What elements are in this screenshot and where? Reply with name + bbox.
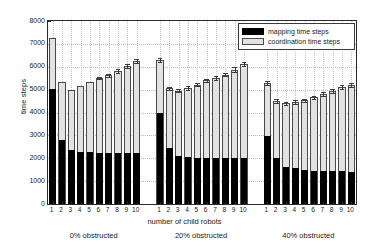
error-bar-cap: [330, 89, 334, 90]
bar-segment-mapping: [283, 167, 290, 204]
error-bar-cap: [223, 76, 227, 77]
bar-segment-mapping: [203, 158, 210, 204]
x-tick-mark: [207, 202, 208, 204]
error-bar-cap: [204, 82, 208, 83]
error-bar-cap: [330, 93, 334, 94]
x-tick-mark: [244, 202, 245, 204]
error-bar-cap: [340, 89, 344, 90]
error-bar-cap: [106, 74, 110, 75]
bar-stack: [58, 82, 65, 204]
error-bar-cap: [232, 67, 236, 68]
y-axis-tick-labels: 010002000300040005000600070008000: [12, 0, 45, 248]
x-tick-mark: [314, 202, 315, 204]
group-caption-1: 20% obstructed: [151, 231, 251, 240]
bar-stack: [231, 70, 238, 205]
error-bar-cap: [293, 104, 297, 105]
y-tick-label: 3000: [15, 131, 45, 138]
x-tick-label: 10: [128, 206, 144, 214]
bar-segment-mapping: [87, 152, 94, 203]
legend-item-coordination: coordination time steps: [242, 37, 351, 46]
error-bar-cap: [321, 92, 325, 93]
x-tick-mark: [295, 202, 296, 204]
legend-swatch-coordination-icon: [242, 38, 264, 45]
x-tick-mark: [137, 202, 138, 204]
chart-legend: mapping time steps coordination time ste…: [238, 23, 355, 50]
x-tick-mark: [235, 202, 236, 204]
x-axis-label: number of child robots: [0, 217, 369, 226]
bar-stack: [212, 78, 219, 204]
x-tick-mark: [109, 202, 110, 204]
bar-segment-mapping: [77, 152, 84, 203]
bar-segment-mapping: [68, 150, 75, 204]
bar-segment-mapping: [241, 158, 248, 203]
x-tick-mark: [286, 202, 287, 204]
x-tick-mark: [323, 202, 324, 204]
bar-segment-mapping: [329, 171, 336, 203]
y-tick-label: 8000: [15, 17, 45, 24]
bar-stack: [133, 61, 140, 204]
bar-stack: [338, 87, 345, 204]
x-tick-label: 10: [235, 206, 251, 214]
bar-stack: [156, 60, 163, 204]
y-tick-label: 2000: [15, 154, 45, 161]
bar-stack: [301, 100, 308, 204]
x-tick-mark: [81, 202, 82, 204]
legend-item-mapping: mapping time steps: [242, 27, 351, 36]
y-tick-mark: [48, 204, 51, 205]
error-bar-cap: [274, 99, 278, 100]
error-bar-cap: [293, 100, 297, 101]
error-bar-cap: [242, 66, 246, 67]
error-bar-cap: [176, 89, 180, 90]
bar-stack: [310, 97, 317, 204]
error-bar-cap: [106, 77, 110, 78]
bar-stack: [320, 94, 327, 204]
bar-stack: [222, 75, 229, 204]
bar-segment-mapping: [320, 171, 327, 204]
bar-stack: [240, 64, 247, 204]
x-tick-mark: [71, 202, 72, 204]
x-tick-mark: [216, 202, 217, 204]
bar-segment-mapping: [133, 153, 140, 203]
bar-segment-mapping: [222, 158, 229, 203]
bar-stack: [194, 85, 201, 204]
bar-stack: [49, 38, 56, 204]
y-tick-label: 4000: [15, 108, 45, 115]
bar-segment-mapping: [96, 153, 103, 204]
error-bar-cap: [125, 64, 129, 65]
bar-segment-mapping: [124, 153, 131, 203]
error-bar-cap: [116, 69, 120, 70]
error-bar-cap: [265, 85, 269, 86]
bar-segment-mapping: [115, 153, 122, 203]
bar-segment-mapping: [231, 158, 238, 203]
x-tick-mark: [188, 202, 189, 204]
bar-stack: [96, 78, 103, 204]
y-tick-mark: [48, 21, 51, 22]
error-bar-cap: [176, 92, 180, 93]
error-bar-cap: [167, 87, 171, 88]
bar-segment-mapping: [273, 158, 280, 203]
bar-segment-mapping: [301, 170, 308, 204]
bar-stack: [184, 88, 191, 204]
error-bar-cap: [97, 79, 101, 80]
error-bar-cap: [312, 96, 316, 97]
error-bar-cap: [195, 83, 199, 84]
bar-stack: [166, 88, 173, 204]
bar-stack: [68, 90, 75, 204]
error-bar-cap: [125, 68, 129, 69]
x-tick-mark: [351, 202, 352, 204]
error-bar-cap: [214, 80, 218, 81]
bar-stack: [105, 75, 112, 204]
error-bar-cap: [349, 83, 353, 84]
bar-stack: [203, 80, 210, 204]
bar-segment-mapping: [185, 157, 192, 204]
x-tick-mark: [267, 202, 268, 204]
bar-segment-mapping: [213, 158, 220, 203]
x-tick-mark: [118, 202, 119, 204]
bar-segment-mapping: [49, 89, 56, 203]
chart-figure: time steps 01000200030004000500060007000…: [0, 0, 369, 248]
error-bar-cap: [134, 59, 138, 60]
x-tick-mark: [342, 202, 343, 204]
bar-stack: [329, 91, 336, 204]
x-tick-label: 10: [342, 206, 358, 214]
grid-line-horizontal: [48, 67, 356, 68]
